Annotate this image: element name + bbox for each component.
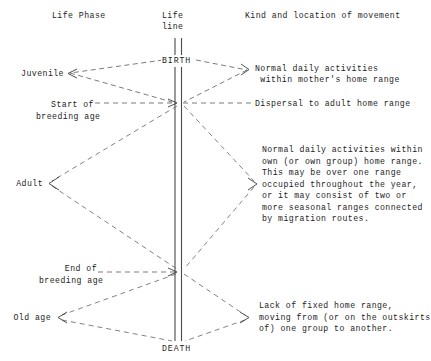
movement-dispersal-line-1: Dispersal to adult home range [255,98,411,110]
header-life-phase: Life Phase [52,10,106,22]
juvenile-movement-lens [70,60,247,102]
adult-movement-rhombus [52,106,254,269]
arrowhead-juvenile-movement [241,64,249,75]
juvenile-line-lower-left [70,73,172,102]
adult-line-lower-left [52,186,177,269]
movement-old-age-line-1: Lack of fixed home range, [259,300,393,312]
adult-line-upper-right [184,106,254,181]
milestone-birth: BIRTH [161,55,192,67]
movement-adult-line-6: more seasonal ranges connected [262,202,423,214]
movement-adult-line-7: by migration routes. [262,213,369,225]
juvenile-line-upper-right [196,60,247,70]
header-life-line-2: line [162,21,183,33]
old-age-line-lower-left [62,320,172,341]
juvenile-line-upper-left [70,60,163,73]
old-age-line-upper-right [184,274,245,315]
movement-old-age-line-3: of) one group to another. [259,323,393,335]
life-phase-diagram: Life Phase Life line Kind and location o… [0,0,431,361]
phase-label-adult: Adult [5,178,43,190]
milestone-death: DEATH [161,343,192,355]
life-line-group [175,38,182,341]
juvenile-line-lower-right [184,70,247,102]
movement-adult-line-2: own (or own group) home range. [262,156,423,168]
movement-juvenile-line-2: within mother's home range [255,74,400,86]
movement-adult-line-1: Normal daily activities within [262,144,423,156]
old-age-line-lower-right [185,320,245,341]
movement-adult-line-4: occupied throughout the year, [262,179,418,191]
phase-label-end-breeding: End of breeding age [39,263,97,286]
header-life-line-1: Life [162,10,183,22]
header-kind-location: Kind and location of movement [245,10,401,22]
arrowhead-adult [49,177,59,190]
movement-juvenile-line-1: Normal daily activities [255,63,378,75]
movement-adult-line-3: This may be over one range [262,167,401,179]
movement-adult-line-5: or it may consist of two or [262,190,407,202]
phase-label-start-breeding: Start of breeding age [36,99,94,122]
movement-old-age-line-2: moving from (or on the outskirts [259,312,431,324]
adult-line-lower-right [184,187,254,269]
phase-label-old-age: Old age [5,312,51,324]
phase-label-juvenile: Juvenile [12,68,64,80]
